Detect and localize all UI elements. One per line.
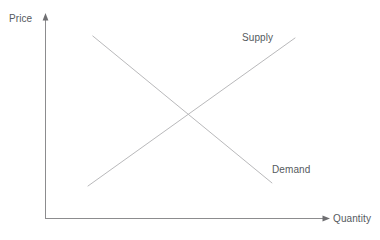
supply-curve-label: Supply: [242, 32, 273, 43]
demand-curve: [93, 36, 272, 183]
y-axis-label: Price: [9, 13, 32, 24]
chart-plot-area: [0, 0, 380, 240]
x-axis-arrowhead-icon: [323, 216, 331, 222]
demand-curve-label: Demand: [272, 164, 310, 175]
x-axis: [45, 216, 330, 222]
y-axis: [43, 13, 49, 219]
x-axis-label: Quantity: [333, 213, 371, 224]
supply-curve: [88, 38, 295, 186]
supply-demand-chart: Price Quantity Supply Demand: [0, 0, 380, 240]
y-axis-arrowhead-icon: [43, 13, 49, 21]
